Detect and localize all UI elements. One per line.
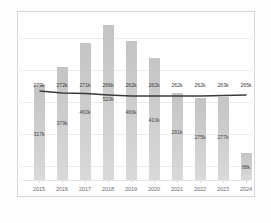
x-tickmark [223, 180, 224, 183]
x-tickmark [246, 180, 247, 183]
x-tickmark [200, 180, 201, 183]
x-tickmark [154, 180, 155, 183]
x-tickmark [85, 180, 86, 183]
x-axis-label-2024: 2024 [233, 186, 259, 192]
x-tickmark [131, 180, 132, 183]
line-label-2024: 265k [231, 82, 261, 88]
chart-frame: 317k 379k 460k 520k 466k 410k 291k 275k … [17, 11, 255, 197]
x-tickmark [62, 180, 63, 183]
x-tickmark [177, 180, 178, 183]
x-tickmark [108, 180, 109, 183]
line-series [18, 12, 256, 198]
chart-figure: 317k 379k 460k 520k 466k 410k 291k 275k … [0, 0, 271, 223]
x-tickmark [39, 180, 40, 183]
plot-area: 317k 379k 460k 520k 466k 410k 291k 275k … [18, 12, 254, 196]
